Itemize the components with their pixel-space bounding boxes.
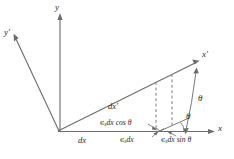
- y-prime-axis-label: y′: [4, 28, 10, 37]
- figure-drawing-canvas: [0, 0, 234, 159]
- dx-label: dx: [78, 136, 86, 145]
- dx-prime-label: dx′: [108, 102, 118, 111]
- theta-upper-arc: [183, 68, 199, 135]
- epsilon-dx-label: ϵxdx: [120, 136, 134, 144]
- x-axis-label: x: [218, 124, 222, 133]
- epsilon-dx-cos-theta-label: ϵxdx cos θ: [100, 119, 131, 127]
- epsilon-dx-sin-theta-label: ϵxdx sin θ: [161, 136, 191, 144]
- x-axis-line: [58, 129, 215, 134]
- theta-upper-label: θ: [198, 94, 202, 103]
- strain-transformation-figure: y y′ x x′ θ θ dx′ dx ϵxdx cos θ ϵxdx ϵxd…: [0, 0, 234, 159]
- theta-lower-label: θ: [186, 112, 190, 121]
- y-prime-axis-line: [14, 34, 59, 131]
- x-prime-axis-label: x′: [202, 50, 208, 59]
- y-axis-line: [57, 13, 62, 131]
- y-axis-label: y: [55, 3, 59, 12]
